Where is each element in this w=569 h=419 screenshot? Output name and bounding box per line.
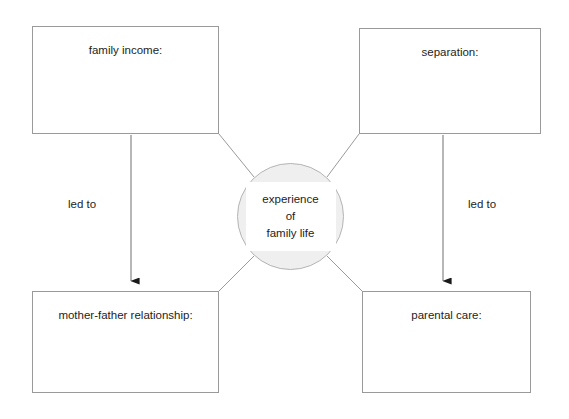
connector-family-income-to-center	[219, 134, 254, 177]
center-circle[interactable]: experience of family life	[237, 163, 344, 270]
center-circle-text: experience of family life	[246, 182, 336, 250]
box-parental-care[interactable]: parental care:	[362, 291, 531, 393]
box-family-income[interactable]: family income:	[32, 26, 219, 134]
box-mother-father-relationship[interactable]: mother-father relationship:	[32, 291, 219, 393]
connector-center-to-mother-father-relationship	[219, 256, 254, 291]
box-separation[interactable]: separation:	[359, 28, 541, 134]
edge-label-right-led-to: led to	[468, 198, 496, 210]
connector-center-to-parental-care	[327, 256, 362, 291]
center-line-2: of	[250, 208, 332, 225]
connector-separation-to-center	[327, 134, 359, 177]
edge-label-left-led-to: led to	[68, 198, 96, 210]
diagram-canvas: family income: separation: mother-father…	[0, 0, 569, 419]
center-line-3: family life	[250, 225, 332, 242]
center-line-1: experience	[250, 191, 332, 208]
